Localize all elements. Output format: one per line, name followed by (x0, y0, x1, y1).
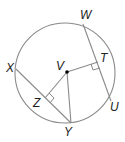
label-x: X (6, 62, 14, 74)
label-w: W (80, 9, 91, 21)
segment-vt (67, 62, 98, 72)
label-u: U (110, 101, 119, 113)
segment-vz (45, 72, 67, 98)
label-t: T (100, 52, 107, 64)
label-v: V (56, 60, 64, 72)
label-z: Z (33, 97, 40, 109)
circle (15, 23, 115, 123)
center-point-v (65, 70, 69, 74)
label-y: Y (64, 126, 72, 138)
segment-vy (67, 72, 71, 123)
